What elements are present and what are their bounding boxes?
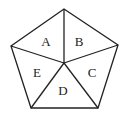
pentagon-diagram: A B C D E xyxy=(0,0,128,119)
region-label-b: B xyxy=(75,34,84,49)
region-label-a: A xyxy=(41,34,51,49)
region-label-c: C xyxy=(88,65,97,80)
region-label-e: E xyxy=(33,65,41,80)
spoke-left xyxy=(11,46,64,63)
spoke-right xyxy=(64,45,118,63)
region-label-d: D xyxy=(58,83,67,98)
